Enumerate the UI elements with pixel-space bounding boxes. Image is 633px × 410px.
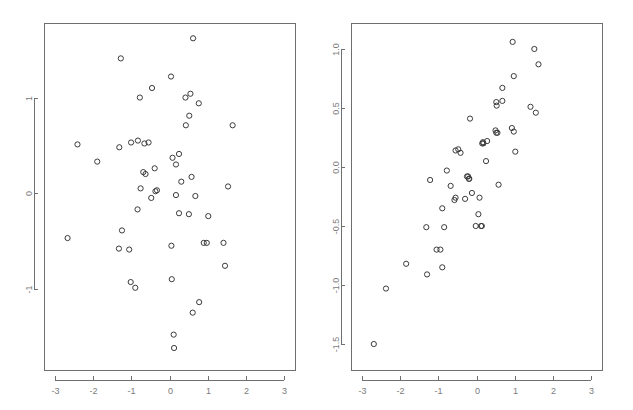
data-point — [404, 261, 409, 266]
data-point — [469, 190, 474, 195]
data-point — [187, 113, 192, 118]
panel-right-canvas: -3-2-101231.00.50.0-0.5-1.0-1.5 — [318, 0, 633, 410]
data-point — [149, 85, 154, 90]
data-point — [440, 265, 445, 270]
data-point — [189, 174, 194, 179]
data-point — [222, 263, 227, 268]
data-point — [154, 188, 159, 193]
data-point — [127, 247, 132, 252]
data-point — [171, 332, 176, 337]
data-point — [510, 39, 515, 44]
left-y-tick-label: 0 — [24, 191, 34, 196]
right-y-tick-label: -1.0 — [331, 278, 341, 294]
data-point — [444, 168, 449, 173]
panel-right: -3-2-101231.00.50.0-0.5-1.0-1.5 — [318, 0, 633, 410]
data-point — [383, 286, 388, 291]
data-point — [196, 101, 201, 106]
data-point — [440, 206, 445, 211]
data-point — [75, 142, 80, 147]
left-x-tick-label: -2 — [89, 386, 97, 396]
data-point — [442, 225, 447, 230]
data-point — [119, 228, 124, 233]
data-point — [152, 166, 157, 171]
data-point — [483, 158, 488, 163]
data-point — [528, 104, 533, 109]
left-y-tick-label: 1 — [24, 96, 34, 101]
data-point — [467, 116, 472, 121]
data-point — [438, 247, 443, 252]
data-point — [171, 345, 176, 350]
data-point — [536, 62, 541, 67]
right-x-tick-label: -2 — [396, 386, 404, 396]
data-point — [176, 211, 181, 216]
data-point — [138, 186, 143, 191]
data-point — [128, 279, 133, 284]
data-point — [424, 272, 429, 277]
data-point — [170, 155, 175, 160]
data-point — [371, 341, 376, 346]
data-point — [183, 123, 188, 128]
right-x-tick-label: -3 — [358, 386, 366, 396]
right-x-tick-label: 3 — [589, 386, 594, 396]
data-point — [190, 36, 195, 41]
data-point — [186, 212, 191, 217]
data-point — [176, 151, 181, 156]
data-point — [511, 74, 516, 79]
data-point — [133, 285, 138, 290]
left-x-tick-label: 1 — [206, 386, 211, 396]
left-x-tick-label: 2 — [244, 386, 249, 396]
left-y-tick-label: -1 — [24, 285, 34, 293]
data-point — [473, 223, 478, 228]
data-point — [494, 103, 499, 108]
data-point — [188, 91, 193, 96]
data-point — [193, 193, 198, 198]
data-point — [173, 162, 178, 167]
panel-left-canvas: -3-2-1012310-1 — [0, 0, 318, 410]
left-x-tick-label: 0 — [168, 386, 173, 396]
data-point — [179, 179, 184, 184]
data-point — [149, 195, 154, 200]
data-point — [190, 310, 195, 315]
right-y-tick-label: -1.5 — [331, 337, 341, 353]
data-point — [135, 207, 140, 212]
right-y-tick-label: -0.5 — [331, 219, 341, 235]
panel-left: -3-2-1012310-1 — [0, 0, 318, 410]
data-point — [135, 138, 140, 143]
data-point — [462, 196, 467, 201]
data-point — [169, 277, 174, 282]
data-point — [197, 300, 202, 305]
data-point — [173, 192, 178, 197]
right-x-tick-label: 0 — [475, 386, 480, 396]
scatter-plot-figure: -3-2-1012310-1 -3-2-101231.00.50.0-0.5-1… — [0, 0, 633, 410]
data-point — [118, 56, 123, 61]
data-point — [533, 110, 538, 115]
data-point — [424, 225, 429, 230]
data-point — [225, 184, 230, 189]
right-x-tick-label: 2 — [551, 386, 556, 396]
data-point — [183, 95, 188, 100]
left-x-tick-label: -1 — [127, 386, 135, 396]
data-point — [476, 212, 481, 217]
right-y-tick-label: 1.0 — [331, 43, 341, 56]
data-point — [221, 240, 226, 245]
right-x-tick-label: 1 — [513, 386, 518, 396]
data-point — [117, 145, 122, 150]
left-plot-frame — [45, 24, 296, 371]
right-x-tick-label: -1 — [434, 386, 442, 396]
right-y-tick-label: 0.5 — [331, 102, 341, 115]
data-point — [137, 95, 142, 100]
data-point — [532, 46, 537, 51]
data-point — [428, 177, 433, 182]
data-point — [128, 140, 133, 145]
data-point — [65, 235, 70, 240]
data-point — [168, 74, 173, 79]
data-point — [500, 98, 505, 103]
data-point — [513, 149, 518, 154]
data-point — [496, 182, 501, 187]
data-point — [95, 159, 100, 164]
data-point — [206, 214, 211, 219]
left-x-tick-label: -3 — [51, 386, 59, 396]
data-point — [448, 183, 453, 188]
data-point — [500, 85, 505, 90]
data-point — [230, 123, 235, 128]
